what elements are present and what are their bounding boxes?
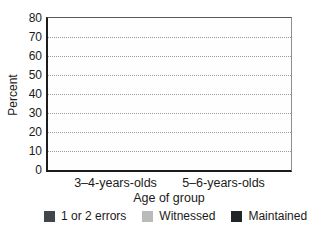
gridline — [48, 94, 291, 95]
gridline — [48, 113, 291, 114]
bar-chart: Percent 01020304050607080 3–4-years-olds… — [0, 0, 309, 236]
x-tick-label: 5–6-years-olds — [144, 176, 304, 190]
legend: 1 or 2 errorsWitnessedMaintained — [44, 209, 307, 223]
y-tick-label: 50 — [14, 69, 42, 82]
y-tick-label: 80 — [14, 12, 42, 25]
gridline — [48, 75, 291, 76]
y-tick-label: 20 — [14, 126, 42, 139]
plot-area — [46, 17, 292, 172]
y-tick-label: 10 — [14, 145, 42, 158]
y-tick-label: 0 — [14, 164, 42, 177]
y-tick-label: 30 — [14, 107, 42, 120]
legend-item: Witnessed — [142, 209, 215, 223]
legend-swatch — [231, 211, 242, 222]
legend-label: 1 or 2 errors — [61, 209, 126, 223]
gridline — [48, 151, 291, 152]
legend-item: 1 or 2 errors — [44, 209, 126, 223]
legend-swatch — [142, 211, 153, 222]
y-tick-label: 40 — [14, 88, 42, 101]
legend-label: Maintained — [248, 209, 307, 223]
legend-label: Witnessed — [159, 209, 215, 223]
legend-item: Maintained — [231, 209, 307, 223]
y-tick-label: 70 — [14, 31, 42, 44]
legend-swatch — [44, 211, 55, 222]
gridline — [48, 37, 291, 38]
y-tick-label: 60 — [14, 50, 42, 63]
gridline — [48, 132, 291, 133]
x-axis-title: Age of group — [89, 191, 249, 205]
gridline — [48, 56, 291, 57]
